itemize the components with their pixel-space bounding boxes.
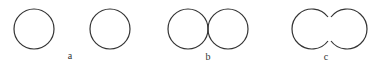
panel-c-shapes	[292, 9, 367, 49]
circle-a-left	[14, 9, 54, 49]
panel-b-shapes	[168, 9, 248, 49]
panel-a-shapes	[14, 9, 130, 49]
panel-label-a: a	[68, 50, 72, 61]
circle-b-right	[208, 9, 248, 49]
arc-c-left	[292, 9, 328, 49]
panel-label-b: b	[206, 51, 211, 62]
panel-label-c: c	[324, 51, 328, 62]
circle-b-left	[168, 9, 208, 49]
arc-c-right	[331, 9, 367, 49]
circle-a-right	[90, 9, 130, 49]
